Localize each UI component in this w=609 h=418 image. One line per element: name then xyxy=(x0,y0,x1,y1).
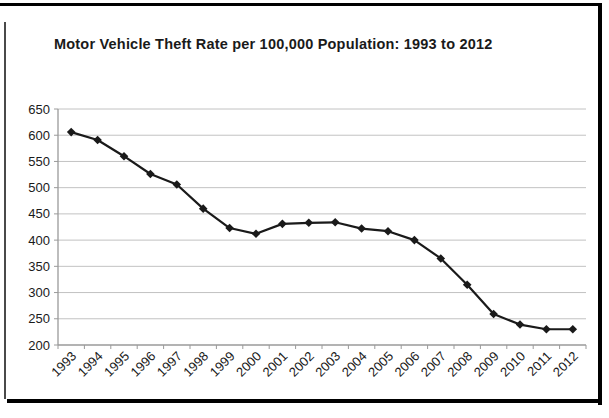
x-axis-tick-label: 2004 xyxy=(339,349,370,380)
y-axis-tick-label: 550 xyxy=(28,154,50,169)
x-axis-tick-label: 2012 xyxy=(550,349,581,380)
x-axis-tick-label: 2008 xyxy=(444,349,475,380)
x-axis-tick-label: 1993 xyxy=(48,349,79,380)
x-axis-tick-label: 1999 xyxy=(207,349,238,380)
data-point-marker xyxy=(252,230,261,239)
theft-rate-line-chart: 2002503003504004505005506006501993199419… xyxy=(0,0,609,418)
x-axis-tick-label: 1995 xyxy=(101,349,132,380)
data-point-marker xyxy=(278,220,287,229)
x-axis-tick-label: 1994 xyxy=(75,349,106,380)
y-axis-tick-label: 250 xyxy=(28,311,50,326)
scanned-chart-page: Motor Vehicle Theft Rate per 100,000 Pop… xyxy=(0,0,609,418)
x-axis-tick-label: 2000 xyxy=(233,349,264,380)
data-point-marker xyxy=(357,224,366,233)
x-axis-tick-label: 2001 xyxy=(259,349,290,380)
y-axis-tick-label: 300 xyxy=(28,285,50,300)
y-axis-tick-label: 200 xyxy=(28,338,50,353)
x-axis-tick-label: 2009 xyxy=(471,349,502,380)
x-axis-tick-label: 2007 xyxy=(418,349,449,380)
x-axis-tick-label: 2011 xyxy=(524,349,554,379)
y-axis-tick-label: 650 xyxy=(28,102,50,117)
data-point-marker xyxy=(305,219,314,228)
data-point-marker xyxy=(542,325,551,334)
x-axis-tick-label: 2006 xyxy=(391,349,422,380)
y-axis-tick-label: 600 xyxy=(28,128,50,143)
x-axis-tick-label: 1998 xyxy=(180,349,211,380)
y-axis-tick-label: 450 xyxy=(28,206,50,221)
data-point-marker xyxy=(569,325,578,334)
y-axis-tick-label: 400 xyxy=(28,233,50,248)
y-axis-tick-label: 500 xyxy=(28,180,50,195)
x-axis-tick-label: 2002 xyxy=(286,349,317,380)
data-point-marker xyxy=(331,218,340,227)
y-axis-tick-label: 350 xyxy=(28,259,50,274)
x-axis-tick-label: 1996 xyxy=(127,349,158,380)
x-axis-tick-label: 2003 xyxy=(312,349,343,380)
x-axis-tick-label: 2005 xyxy=(365,349,396,380)
x-axis-tick-label: 1997 xyxy=(154,349,185,380)
x-axis-tick-label: 2010 xyxy=(497,349,528,380)
data-point-marker xyxy=(384,227,393,236)
data-point-marker xyxy=(516,320,525,329)
